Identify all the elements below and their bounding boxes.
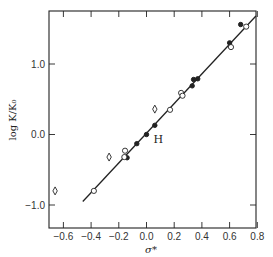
open-circle-point bbox=[167, 107, 172, 112]
plot-frame bbox=[49, 11, 256, 228]
annotation-label: H bbox=[153, 133, 163, 146]
y-axis-title: log K/K₀ bbox=[7, 99, 18, 140]
x-tick-label: −0.2 bbox=[109, 231, 129, 242]
x-tick-label: −0.6 bbox=[54, 231, 74, 242]
filled-circle-point bbox=[196, 77, 200, 81]
open-circle-point bbox=[244, 24, 249, 29]
x-tick-label: −0.4 bbox=[81, 231, 101, 242]
x-tick-label: 0.2 bbox=[167, 231, 181, 242]
y-tick-label: 0.0 bbox=[31, 129, 45, 140]
annotations: H bbox=[153, 133, 163, 146]
y-tick-label: 1.0 bbox=[31, 59, 45, 70]
open-circle-point bbox=[228, 44, 233, 49]
open-circle-point bbox=[122, 148, 127, 153]
chart: −0.6−0.4−0.20.00.20.40.60.8 −1.00.01.0 H… bbox=[0, 0, 273, 257]
filled-circle-point bbox=[153, 123, 157, 127]
y-tick-label: −1.0 bbox=[25, 200, 45, 211]
filled-circle-point bbox=[144, 132, 148, 136]
x-axis-title: σ* bbox=[145, 244, 157, 255]
open-circle-point bbox=[180, 93, 185, 98]
plot-border bbox=[49, 11, 256, 228]
open-circle-point bbox=[91, 188, 96, 193]
x-tick-label: 0.6 bbox=[223, 231, 237, 242]
x-tick-label: 0.4 bbox=[195, 231, 209, 242]
data-points bbox=[53, 22, 249, 195]
open-circle-point bbox=[122, 154, 127, 159]
filled-circle-point bbox=[191, 77, 195, 81]
filled-circle-point bbox=[238, 22, 242, 26]
open-diamond-point bbox=[53, 187, 57, 195]
open-diamond-point bbox=[153, 105, 157, 113]
filled-circle-point bbox=[190, 84, 194, 88]
x-tick-label: 0.0 bbox=[140, 231, 154, 242]
open-diamond-point bbox=[107, 153, 111, 161]
filled-circle-point bbox=[135, 141, 139, 145]
x-tick-label: 0.8 bbox=[250, 231, 264, 242]
x-tick-labels: −0.6−0.4−0.20.00.20.40.60.8 bbox=[54, 231, 265, 242]
axis-ticks bbox=[49, 11, 257, 228]
y-tick-labels: −1.00.01.0 bbox=[25, 59, 45, 211]
